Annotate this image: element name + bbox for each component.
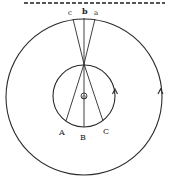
chord-to-C	[84, 64, 103, 121]
upper-ray-lines	[73, 18, 95, 64]
label-c: c	[68, 9, 72, 17]
label-O: O	[82, 94, 86, 100]
diagram-canvas: c b a A B C O	[0, 0, 169, 182]
label-a: a	[94, 9, 98, 17]
ray-to-a	[84, 19, 95, 64]
label-B: B	[80, 133, 86, 142]
label-C: C	[103, 127, 109, 136]
label-A: A	[58, 128, 65, 137]
chord-to-A	[66, 64, 84, 121]
outer-circle-arrow-icon	[158, 89, 163, 94]
label-b: b	[82, 6, 88, 16]
ray-to-c	[73, 19, 84, 64]
